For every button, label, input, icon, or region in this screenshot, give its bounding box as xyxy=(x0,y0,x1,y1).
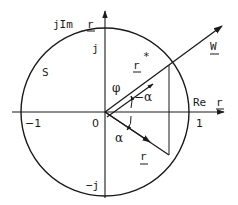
w-label: W xyxy=(210,40,217,53)
complex-plane-diagram: jIm r Re r j −j 0 −1 1 S W r * r φ −α α xyxy=(0,0,238,205)
imag-axis-var: r xyxy=(87,18,94,31)
tick-pos-imag: j xyxy=(92,42,99,55)
r-vector-arrow xyxy=(105,112,150,142)
tick-neg-real: −1 xyxy=(25,117,41,130)
real-axis-var: r xyxy=(216,96,223,109)
region-label: S xyxy=(42,66,49,79)
tick-neg-imag: −j xyxy=(86,179,99,192)
r-star-superscript: * xyxy=(143,50,150,63)
neg-alpha-arc xyxy=(131,96,132,108)
r-star-label: r xyxy=(133,59,140,72)
r-label: r xyxy=(140,150,147,163)
tick-pos-real: 1 xyxy=(196,117,203,130)
real-axis-label: Re xyxy=(193,96,206,109)
neg-alpha-label: −α xyxy=(134,90,152,104)
phi-label: φ xyxy=(112,81,120,95)
imag-axis-label: jIm xyxy=(53,18,73,31)
tick-origin: 0 xyxy=(92,117,99,130)
alpha-label: α xyxy=(115,131,123,145)
